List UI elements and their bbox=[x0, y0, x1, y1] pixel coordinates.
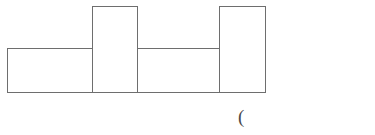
bar-diagram bbox=[0, 0, 375, 135]
figure-canvas: ( bbox=[0, 0, 375, 135]
bar-2 bbox=[93, 7, 138, 93]
bars-group bbox=[8, 7, 266, 93]
bar-1 bbox=[8, 49, 93, 93]
parenthesis-annotation: ( bbox=[238, 107, 244, 126]
bar-3 bbox=[138, 49, 220, 93]
bar-4 bbox=[220, 7, 266, 93]
